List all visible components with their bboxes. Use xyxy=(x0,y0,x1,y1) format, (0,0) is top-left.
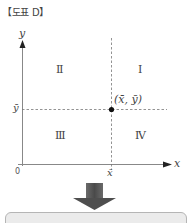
x-axis-arrow-icon xyxy=(163,162,172,168)
y-axis xyxy=(20,40,26,166)
result-box xyxy=(5,212,187,223)
scatter-quadrant-diagram xyxy=(0,0,188,223)
mean-point xyxy=(109,107,114,112)
x-axis-label: x xyxy=(174,158,180,169)
quadrant-2-label: Ⅱ xyxy=(56,64,63,75)
y-mean-label: ȳ xyxy=(13,103,19,113)
y-axis-arrow-icon xyxy=(20,40,26,48)
quadrant-4-label: Ⅳ xyxy=(135,130,146,141)
quadrant-3-label: Ⅲ xyxy=(55,130,66,141)
origin-label: 0 xyxy=(15,168,20,176)
y-axis-label: y xyxy=(19,28,25,39)
x-mean-label: x̄ xyxy=(107,168,113,178)
mean-point-label: (x̄, ȳ) xyxy=(114,94,142,105)
x-axis xyxy=(18,162,172,168)
quadrant-1-label: Ⅰ xyxy=(138,64,142,75)
down-arrow-icon xyxy=(73,183,116,210)
